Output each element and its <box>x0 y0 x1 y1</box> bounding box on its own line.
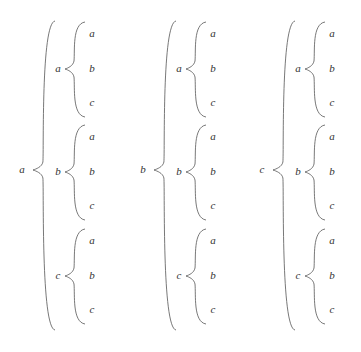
inner-brace <box>186 125 206 220</box>
branch-label: a <box>55 62 61 74</box>
leaf-label: a <box>210 130 216 142</box>
leaf-label: b <box>210 269 216 281</box>
inner-brace <box>305 125 325 220</box>
branch-a: aabc <box>176 22 216 117</box>
leaf-label: c <box>90 199 95 211</box>
leaf-label: c <box>330 96 335 108</box>
branch-label: a <box>176 62 182 74</box>
root-label: c <box>260 163 265 175</box>
leaf-label: a <box>329 234 335 246</box>
inner-brace <box>186 229 206 324</box>
leaf-label: b <box>210 62 216 74</box>
branch-label: b <box>176 165 182 177</box>
leaf-label: a <box>89 130 95 142</box>
branch-b: babc <box>295 125 335 220</box>
branch-b: babc <box>176 125 216 220</box>
brace-tree-diagram: aaabcbabccabcbaabcbabccabccaabcbabccabc <box>0 0 361 352</box>
leaf-label: a <box>329 130 335 142</box>
leaf-label: c <box>330 199 335 211</box>
branch-a: aabc <box>295 22 335 117</box>
leaf-label: a <box>329 27 335 39</box>
root-label: b <box>140 163 146 175</box>
leaf-label: c <box>211 303 216 315</box>
branch-label: c <box>56 269 61 281</box>
leaf-label: a <box>89 234 95 246</box>
outer-brace <box>33 21 55 330</box>
leaf-label: a <box>210 234 216 246</box>
branch-c: cabc <box>296 229 336 324</box>
outer-brace <box>154 21 176 330</box>
branch-c: cabc <box>177 229 217 324</box>
branch-label: c <box>177 269 182 281</box>
leaf-label: c <box>90 303 95 315</box>
leaf-label: b <box>329 62 335 74</box>
inner-brace <box>65 125 85 220</box>
branch-label: b <box>55 165 61 177</box>
outer-brace <box>273 21 295 330</box>
inner-brace <box>65 22 85 117</box>
inner-brace <box>186 22 206 117</box>
branch-label: b <box>295 165 301 177</box>
inner-brace <box>305 229 325 324</box>
branch-a: aabc <box>55 22 95 117</box>
leaf-label: c <box>330 303 335 315</box>
inner-brace <box>65 229 85 324</box>
root-label: a <box>19 163 25 175</box>
leaf-label: b <box>89 269 95 281</box>
branch-c: cabc <box>56 229 96 324</box>
leaf-label: a <box>210 27 216 39</box>
leaf-label: c <box>211 96 216 108</box>
branch-b: babc <box>55 125 95 220</box>
leaf-label: b <box>89 165 95 177</box>
leaf-label: a <box>89 27 95 39</box>
leaf-label: b <box>329 269 335 281</box>
leaf-label: c <box>90 96 95 108</box>
branch-label: a <box>295 62 301 74</box>
leaf-label: b <box>89 62 95 74</box>
leaf-label: b <box>210 165 216 177</box>
leaf-label: c <box>211 199 216 211</box>
inner-brace <box>305 22 325 117</box>
branch-label: c <box>296 269 301 281</box>
leaf-label: b <box>329 165 335 177</box>
column-b: baabcbabccabc <box>140 21 216 330</box>
column-a: aaabcbabccabc <box>19 21 95 330</box>
column-c: caabcbabccabc <box>260 21 336 330</box>
